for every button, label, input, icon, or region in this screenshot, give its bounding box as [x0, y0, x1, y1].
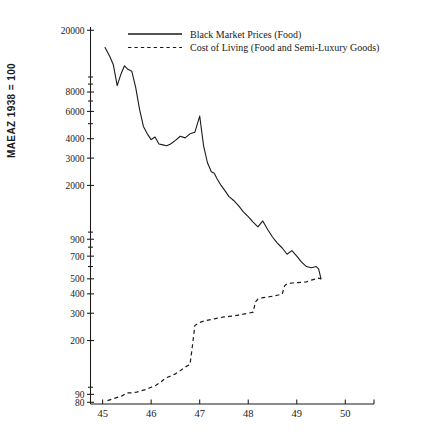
- x-axis-tick-label: 45: [97, 408, 108, 419]
- x-axis-tick-label: 46: [146, 408, 157, 419]
- y-axis-tick-label: 900: [70, 235, 85, 245]
- x-axis-tick-label: 49: [292, 408, 303, 419]
- x-axis-tick-label: 47: [194, 408, 205, 419]
- y-axis-tick-label: 700: [70, 252, 85, 262]
- y-axis-tick-label: 2000: [66, 181, 85, 191]
- legend-label-2: Cost of Living (Food and Semi-Luxury Goo…: [190, 42, 379, 54]
- y-axis-tick-label: 20000: [61, 26, 85, 36]
- chart-figure: MAEAZ 1938 = 100 20000800060004000300020…: [0, 0, 438, 448]
- y-axis-tick-label: 8000: [66, 87, 85, 97]
- x-axis: 454647484950: [91, 400, 375, 420]
- legend-label-1: Black Market Prices (Food): [190, 29, 301, 41]
- y-axis-tick-label: 300: [70, 309, 85, 319]
- series-line-1: [105, 47, 321, 278]
- x-axis-tick-label: 50: [340, 408, 351, 419]
- x-axis-tick-label: 48: [243, 408, 254, 419]
- y-axis-tick-label: 200: [70, 336, 85, 346]
- y-axis-tick-label: 4000: [66, 134, 85, 144]
- y-axis-title: MAEAZ 1938 = 100: [6, 0, 17, 158]
- chart-plot-area: 2000080006000400030002000900700500400300…: [0, 0, 438, 448]
- y-axis-tick-label: 3000: [66, 154, 85, 164]
- data-series-group: [105, 47, 321, 400]
- chart-legend: Black Market Prices (Food)Cost of Living…: [128, 29, 379, 55]
- y-axis-tick-label: 500: [70, 274, 85, 284]
- series-line-2: [107, 278, 321, 400]
- y-axis-tick-label: 400: [70, 289, 85, 299]
- y-axis-tick-label: 80: [75, 398, 85, 408]
- y-axis: 2000080006000400030002000900700500400300…: [61, 26, 94, 408]
- y-axis-tick-label: 6000: [66, 107, 85, 117]
